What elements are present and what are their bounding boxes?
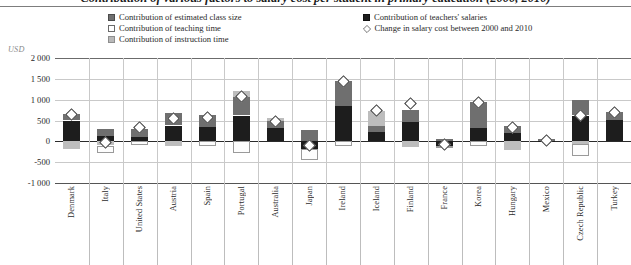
legend-label: Contribution of teaching time: [119, 23, 221, 34]
category-label-cell[interactable]: Iceland: [360, 183, 394, 265]
title-divider: [0, 6, 631, 7]
filled-square-black-icon: [363, 14, 370, 21]
category-label: Czech Republic: [576, 186, 585, 241]
category-label-cell[interactable]: Portugal: [224, 183, 258, 265]
category-label: Australia: [271, 186, 280, 218]
bar-segment-salaries: [233, 116, 250, 142]
category-label-cell[interactable]: Mexico: [529, 183, 563, 265]
filled-square-gray-icon: [108, 14, 115, 21]
category-label: Iceland: [372, 186, 381, 211]
category-label: Portugal: [237, 186, 246, 215]
bar-segment-teaching: [572, 144, 589, 156]
bar-segment-instruction: [402, 141, 419, 146]
category-label: Spain: [203, 186, 212, 206]
category-separator: [563, 58, 564, 183]
bar-segment-salaries: [335, 106, 352, 141]
category-separator: [597, 58, 598, 183]
category-label: United States: [135, 186, 144, 232]
legend-label: Change in salary cost between 2000 and 2…: [375, 23, 533, 34]
category-label: Turkey: [610, 186, 619, 211]
category-separator: [191, 58, 192, 183]
bar-segment-teaching: [199, 141, 216, 146]
category-label-cell[interactable]: Czech Republic: [563, 183, 597, 265]
category-label: Hungary: [508, 186, 517, 216]
category-label-cell[interactable]: Korea: [462, 183, 496, 265]
bar-group[interactable]: [368, 58, 385, 183]
bar-group[interactable]: [301, 58, 318, 183]
bar-segment-class_size: [97, 129, 114, 136]
category-label: Italy: [101, 186, 110, 202]
category-label-cell[interactable]: Japan: [292, 183, 326, 265]
bar-segment-salaries: [402, 122, 419, 142]
y-axis-tick-label: 1 000: [2, 95, 50, 105]
category-separator: [428, 58, 429, 183]
bar-segment-salaries: [63, 121, 80, 142]
bar-segment-salaries: [470, 128, 487, 142]
open-diamond-icon: [363, 25, 371, 33]
category-separator: [529, 58, 530, 183]
bar-segment-instruction: [63, 141, 80, 149]
category-separator: [89, 58, 90, 183]
category-label-cell[interactable]: Italy: [89, 183, 123, 265]
y-axis-tick-label: 1 500: [2, 74, 50, 84]
bar-group[interactable]: [402, 58, 419, 183]
category-label-cell[interactable]: Denmark: [55, 183, 89, 265]
bar-group[interactable]: [63, 58, 80, 183]
category-label-cell[interactable]: Spain: [191, 183, 225, 265]
bar-segment-salaries: [368, 132, 385, 142]
legend-label: Contribution of estimated class size: [119, 12, 242, 23]
category-label: France: [440, 186, 449, 209]
bar-group[interactable]: [97, 58, 114, 183]
filled-square-light-icon: [108, 36, 115, 43]
bar-segment-teaching: [470, 141, 487, 146]
bar-segment-salaries: [165, 126, 182, 142]
legend-label: Contribution of teachers' salaries: [374, 12, 487, 23]
y-axis-tick-label: -1 000: [2, 178, 50, 188]
bar-group[interactable]: [436, 58, 453, 183]
legend-item-class-size: Contribution of estimated class size: [108, 12, 358, 23]
bar-group[interactable]: [233, 58, 250, 183]
legend-column-right: Contribution of teachers' salaries Chang…: [363, 12, 613, 34]
bar-segment-salaries: [504, 133, 521, 141]
bar-segment-teaching: [233, 141, 250, 152]
category-label-cell[interactable]: Turkey: [597, 183, 631, 265]
category-label: Ireland: [338, 186, 347, 210]
bar-segment-class_size: [402, 110, 419, 122]
category-label-cell[interactable]: France: [428, 183, 462, 265]
category-label-cell[interactable]: Ireland: [326, 183, 360, 265]
legend-item-instruction-time: Contribution of instruction time: [108, 34, 358, 45]
open-square-icon: [108, 25, 115, 32]
bar-segment-teaching: [131, 141, 148, 144]
chart-page: Contribution of various factors to salar…: [0, 0, 631, 265]
bar-group[interactable]: [606, 58, 623, 183]
y-axis-tick-label: -500: [2, 157, 50, 167]
bar-segment-salaries: [267, 128, 284, 141]
category-label: Japan: [305, 186, 314, 206]
bar-segment-instruction: [165, 141, 182, 146]
legend-item-change: Change in salary cost between 2000 and 2…: [363, 23, 613, 34]
category-separator: [258, 58, 259, 183]
bar-group[interactable]: [470, 58, 487, 183]
category-separator: [292, 58, 293, 183]
category-label-cell[interactable]: Australia: [258, 183, 292, 265]
category-axis: DenmarkItalyUnited StatesAustriaSpainPor…: [55, 183, 631, 265]
bar-group[interactable]: [538, 58, 555, 183]
y-axis-tick-label: 500: [2, 116, 50, 126]
legend-label: Contribution of instruction time: [119, 34, 229, 45]
category-label-cell[interactable]: United States: [123, 183, 157, 265]
category-separator: [462, 58, 463, 183]
category-label-cell[interactable]: Austria: [157, 183, 191, 265]
category-label-cell[interactable]: Hungary: [495, 183, 529, 265]
category-label: Korea: [474, 186, 483, 207]
y-axis-tick-label: 0: [2, 136, 50, 146]
chart-title: Contribution of various factors to salar…: [0, 0, 631, 5]
category-separator: [360, 58, 361, 183]
y-axis-tick-label: 2 000: [2, 53, 50, 63]
category-label: Denmark: [67, 186, 76, 218]
category-label: Austria: [169, 186, 178, 211]
bar-segment-class_size: [368, 126, 385, 132]
bar-segment-instruction: [504, 141, 521, 149]
category-separator: [394, 58, 395, 183]
category-label-cell[interactable]: Finland: [394, 183, 428, 265]
bar-segment-salaries: [606, 120, 623, 142]
